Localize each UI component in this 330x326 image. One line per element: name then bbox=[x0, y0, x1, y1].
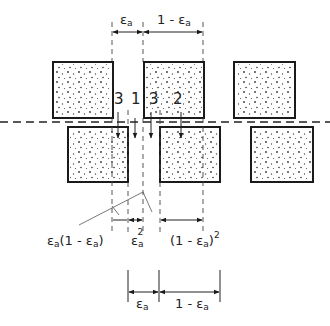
top-dim-label-one-minus-epsilon: 1 - εa bbox=[157, 12, 191, 28]
bottom-dim-label-one-minus-epsilon: 1 - εa bbox=[175, 296, 209, 312]
porous-block-flow-diagram: εa 1 - εa 3 1 3 2 bbox=[0, 0, 330, 326]
bottom-row-blocks bbox=[68, 127, 313, 182]
mid-dim-label-one-minus-epsilon-squared: (1 - εa)2 bbox=[170, 230, 220, 249]
leader-tick bbox=[112, 206, 119, 215]
mid-dim-label-epsilon-squared: εa2 bbox=[131, 227, 144, 249]
mid-dim-label-epsilon-one-minus-epsilon: εa(1 - εa) bbox=[47, 233, 103, 249]
porous-texture bbox=[162, 129, 218, 180]
channel-label-3-center: 3 bbox=[149, 90, 159, 108]
leader-line bbox=[143, 192, 152, 212]
channel-label-2: 2 bbox=[173, 90, 183, 108]
porous-texture bbox=[55, 64, 111, 116]
top-dim-label-epsilon: εa bbox=[120, 12, 133, 28]
porous-texture bbox=[236, 64, 293, 116]
channel-label-1: 1 bbox=[131, 90, 141, 108]
top-dimension: εa 1 - εa bbox=[112, 12, 203, 62]
porous-texture bbox=[253, 129, 311, 180]
channel-labels: 3 1 3 2 bbox=[114, 90, 183, 108]
channel-label-3-left: 3 bbox=[114, 90, 124, 108]
middle-dimension: εa(1 - εa) εa2 (1 - εa)2 bbox=[47, 192, 220, 249]
bottom-dim-label-epsilon: εa bbox=[136, 296, 149, 312]
bottom-dimension: εa 1 - εa bbox=[128, 270, 220, 312]
